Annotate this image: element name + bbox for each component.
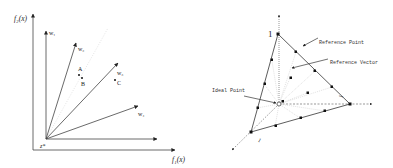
vector-w2	[46, 43, 76, 139]
point-b-label: B	[81, 81, 85, 87]
reference-point-arrow	[303, 38, 318, 46]
left-diagram: f₂(x) f₁(x) z* w₁ w₂ w₃ w₄ A B C	[14, 14, 186, 164]
right-diagram: Reference Point Reference Vector Ideal P…	[212, 15, 378, 150]
reference-vectors	[257, 52, 332, 127]
reference-points	[250, 33, 352, 134]
left-value-label: 1	[257, 137, 263, 144]
reference-vector-arrow	[292, 59, 328, 68]
point-b	[81, 77, 83, 79]
vector-w4-label: w₄	[138, 111, 144, 117]
vector-w3	[46, 63, 118, 139]
reference-vector-label: Reference Vector	[330, 60, 378, 66]
f1-axis-label: f₁(x)	[172, 155, 186, 164]
vector-w2-label: w₂	[78, 46, 84, 52]
reference-point-label: Reference Point	[319, 40, 364, 46]
point-c	[114, 79, 116, 81]
vector-w3-label: w₃	[117, 70, 123, 76]
vector-w4	[46, 106, 138, 139]
origin-label: z*	[39, 143, 45, 149]
ideal-point-arrow	[244, 96, 276, 103]
f2-axis-label: f₂(x)	[14, 14, 28, 23]
point-a-label: A	[78, 66, 83, 72]
vector-w1-label: w₁	[49, 30, 55, 36]
ideal-point	[277, 102, 281, 106]
point-c-label: C	[117, 80, 121, 86]
point-a	[78, 74, 80, 76]
ideal-point-label: Ideal Point	[212, 88, 245, 94]
axis-down-left	[232, 104, 279, 150]
figure-canvas: f₂(x) f₁(x) z* w₁ w₂ w₃ w₄ A B C	[0, 0, 393, 168]
apex-value-label: 1	[268, 29, 273, 39]
